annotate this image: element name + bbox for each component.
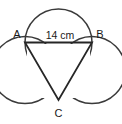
vertex-label-c: C [55, 107, 63, 119]
vertex-label-a: A [13, 28, 21, 40]
geometry-canvas: A B C 14 cm [0, 0, 122, 124]
geometry-figure: A B C 14 cm [0, 0, 122, 124]
vertex-label-b: B [96, 28, 103, 40]
dimension-label-ab: 14 cm [46, 29, 75, 41]
triangle-interior-mask [27, 44, 90, 98]
